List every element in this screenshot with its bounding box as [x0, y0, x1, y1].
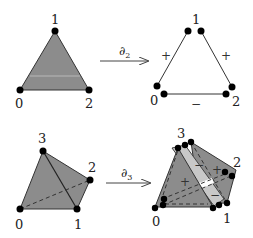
- vertex-dot: [223, 91, 230, 98]
- vertex-label-0: 0: [15, 217, 23, 232]
- vertex-dot: [229, 84, 236, 91]
- vertex-label-0: 0: [150, 93, 158, 108]
- vertex-dot: [185, 28, 192, 35]
- vertex-dot: [229, 173, 235, 179]
- sign-left-edge: +: [161, 49, 171, 63]
- tetrahedron-boundary-exploded: + − + − 3 0 1 2: [152, 126, 241, 229]
- vertex-dot: [152, 205, 158, 211]
- face-sign: +: [212, 163, 222, 177]
- vertex-label-0: 0: [15, 96, 23, 111]
- tetrahedron-3-simplex: 3 0 1 2: [15, 131, 96, 232]
- boundary-operator-3-arrow: ∂3: [106, 166, 150, 183]
- vertex-dot: [161, 196, 167, 202]
- triangle-boundary: 1 0 2 + + −: [150, 12, 240, 111]
- vertex-dot: [210, 205, 216, 211]
- vertex-dot-2: [87, 177, 94, 184]
- vertex-dot-2: [86, 87, 93, 94]
- simplicial-boundary-diagram: 1 0 2 ∂2 1 0 2 + + − 3 0 1 2: [0, 0, 253, 238]
- boundary-operator-2-arrow: ∂2: [100, 44, 148, 61]
- vertex-dot-0: [17, 206, 24, 213]
- vertex-dot: [188, 139, 194, 145]
- vertex-label-2: 2: [232, 94, 240, 109]
- vertex-label-1: 1: [51, 12, 59, 27]
- triangle-face: [20, 31, 89, 90]
- vertex-dot: [222, 169, 228, 175]
- vertex-dot: [198, 28, 205, 35]
- sign-bottom-edge: −: [191, 97, 201, 111]
- vertex-dot: [216, 202, 222, 208]
- tetrahedron-body: [20, 151, 90, 209]
- sign-right-edge: +: [221, 49, 231, 63]
- vertex-dot: [182, 142, 188, 148]
- vertex-dot: [224, 200, 230, 206]
- vertex-label-1: 1: [192, 12, 200, 27]
- vertex-dot: [160, 202, 166, 208]
- boundary-operator-3-label: ∂3: [121, 166, 132, 182]
- vertex-label-1: 1: [223, 211, 231, 226]
- vertex-dot: [175, 145, 181, 151]
- face-sign: +: [180, 175, 190, 189]
- vertex-label-2: 2: [85, 96, 93, 111]
- vertex-dot-1: [52, 28, 59, 35]
- vertex-dot-1: [74, 206, 81, 213]
- vertex-label-2: 2: [233, 155, 241, 170]
- vertex-label-3: 3: [177, 126, 185, 141]
- vertex-label-1: 1: [74, 217, 82, 232]
- vertex-label-2: 2: [88, 160, 96, 175]
- face-sign: −: [194, 158, 204, 172]
- vertex-label-3: 3: [38, 131, 46, 146]
- vertex-dot: [154, 83, 161, 90]
- boundary-operator-2-label: ∂2: [119, 44, 130, 60]
- vertex-dot: [161, 91, 168, 98]
- triangle-2-simplex: 1 0 2: [15, 12, 93, 111]
- vertex-dot-3: [40, 148, 47, 155]
- face-sign: −: [210, 188, 220, 202]
- vertex-dot-0: [17, 87, 24, 94]
- vertex-label-0: 0: [152, 214, 160, 229]
